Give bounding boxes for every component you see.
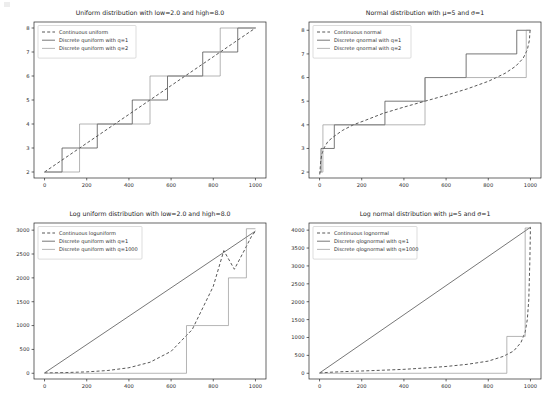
legend-label-2: Discrete qlognormal with q=1000 bbox=[334, 246, 418, 253]
y-tick-label: 2000 bbox=[16, 275, 29, 281]
x-tick-label: 800 bbox=[208, 182, 218, 188]
x-tick-label: 1000 bbox=[249, 383, 262, 389]
y-tick-label: 6 bbox=[301, 74, 304, 80]
plot-canvas-normal: Normal distribution with μ=5 and σ=10200… bbox=[275, 0, 550, 201]
x-tick-label: 800 bbox=[208, 383, 218, 389]
y-tick-label: 4 bbox=[26, 121, 30, 127]
legend-label-0: Continuous loguniform bbox=[59, 230, 116, 237]
x-tick-label: 0 bbox=[43, 182, 46, 188]
y-tick-label: 1500 bbox=[291, 317, 304, 323]
y-tick-label: 0 bbox=[26, 370, 29, 376]
x-tick-label: 0 bbox=[43, 383, 46, 389]
x-tick-label: 200 bbox=[82, 383, 92, 389]
x-tick-label: 200 bbox=[357, 182, 367, 188]
x-tick-label: 400 bbox=[124, 182, 134, 188]
legend-label-0: Continuous normal bbox=[334, 29, 381, 35]
x-tick-label: 600 bbox=[441, 383, 451, 389]
x-tick-label: 400 bbox=[399, 182, 409, 188]
y-tick-label: 8 bbox=[26, 25, 29, 31]
y-tick-label: 2 bbox=[301, 169, 304, 175]
y-tick-label: 0 bbox=[301, 370, 304, 376]
y-tick-label: 500 bbox=[295, 352, 305, 358]
y-tick-label: 4000 bbox=[291, 227, 304, 233]
y-tick-label: 1000 bbox=[16, 322, 29, 328]
x-tick-label: 600 bbox=[166, 182, 176, 188]
legend-label-0: Continuous lognormal bbox=[334, 230, 389, 237]
y-tick-label: 7 bbox=[301, 51, 304, 57]
y-tick-label: 6 bbox=[26, 73, 29, 79]
x-tick-label: 1000 bbox=[249, 182, 262, 188]
x-tick-label: 0 bbox=[318, 383, 321, 389]
y-tick-label: 3 bbox=[301, 145, 304, 151]
x-tick-label: 1000 bbox=[524, 383, 537, 389]
y-tick-label: 3 bbox=[26, 145, 29, 151]
matplotlib-figure: Uniform distribution with low=2.0 and hi… bbox=[0, 0, 550, 402]
y-tick-label: 500 bbox=[20, 346, 30, 352]
legend-label-2: Discrete quniform with q=1000 bbox=[59, 246, 138, 253]
x-tick-label: 1000 bbox=[524, 182, 537, 188]
y-tick-label: 7 bbox=[26, 49, 29, 55]
x-tick-label: 400 bbox=[124, 383, 134, 389]
y-tick-label: 3500 bbox=[291, 245, 304, 251]
y-tick-label: 2500 bbox=[291, 281, 304, 287]
x-tick-label: 200 bbox=[82, 182, 92, 188]
y-tick-label: 3000 bbox=[291, 263, 304, 269]
legend-label-1: Discrete quniform with q=1 bbox=[59, 238, 128, 245]
plot-title-uniform: Uniform distribution with low=2.0 and hi… bbox=[76, 9, 225, 17]
y-tick-label: 2500 bbox=[16, 251, 29, 257]
y-tick-label: 1500 bbox=[16, 299, 29, 305]
x-tick-label: 0 bbox=[318, 182, 321, 188]
x-tick-label: 800 bbox=[483, 383, 493, 389]
legend-label-1: Discrete qnormal with q=1 bbox=[334, 37, 401, 44]
x-tick-label: 800 bbox=[483, 182, 493, 188]
subplot-normal: Normal distribution with μ=5 and σ=10200… bbox=[275, 0, 550, 201]
legend-label-1: Discrete quniform with q=1 bbox=[59, 37, 128, 44]
x-tick-label: 200 bbox=[357, 383, 367, 389]
plot-canvas-uniform: Uniform distribution with low=2.0 and hi… bbox=[0, 0, 275, 201]
x-tick-label: 400 bbox=[399, 383, 409, 389]
x-tick-label: 600 bbox=[441, 182, 451, 188]
legend-label-2: Discrete quniform with q=2 bbox=[59, 45, 128, 52]
legend-label-1: Discrete qlognormal with q=1 bbox=[334, 238, 409, 245]
plot-title-normal: Normal distribution with μ=5 and σ=1 bbox=[366, 9, 484, 17]
plot-title-loguniform: Log uniform distribution with low=2.0 an… bbox=[70, 210, 231, 218]
y-tick-label: 8 bbox=[301, 27, 304, 33]
y-tick-label: 3000 bbox=[16, 227, 29, 233]
y-tick-label: 5 bbox=[301, 98, 304, 104]
legend-label-0: Continuous uniform bbox=[59, 29, 108, 35]
legend-label-2: Discrete qnormal with q=2 bbox=[334, 45, 401, 52]
plot-title-lognormal: Log normal distribution with μ=5 and σ=1 bbox=[360, 210, 491, 218]
subplot-uniform: Uniform distribution with low=2.0 and hi… bbox=[0, 0, 275, 201]
plot-canvas-loguniform: Log uniform distribution with low=2.0 an… bbox=[0, 201, 275, 402]
y-tick-label: 4 bbox=[301, 122, 305, 128]
subplot-lognormal: Log normal distribution with μ=5 and σ=1… bbox=[275, 201, 550, 402]
x-tick-label: 600 bbox=[166, 383, 176, 389]
y-tick-label: 5 bbox=[26, 97, 29, 103]
subplot-loguniform: Log uniform distribution with low=2.0 an… bbox=[0, 201, 275, 402]
y-tick-label: 2 bbox=[26, 169, 29, 175]
y-tick-label: 2000 bbox=[291, 299, 304, 305]
plot-canvas-lognormal: Log normal distribution with μ=5 and σ=1… bbox=[275, 201, 550, 402]
y-tick-label: 1000 bbox=[291, 334, 304, 340]
